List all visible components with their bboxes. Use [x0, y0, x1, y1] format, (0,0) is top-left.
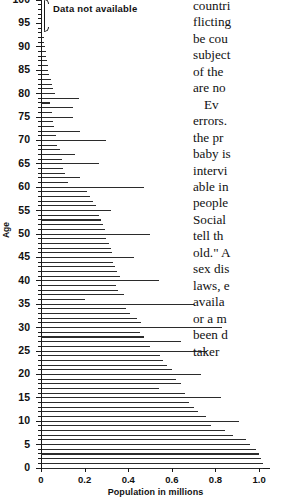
y-tick-70 — [36, 140, 42, 141]
bar-age-39 — [41, 285, 116, 286]
y-tick-12 — [38, 411, 42, 412]
y-tick-54 — [38, 215, 42, 216]
y-tick-22 — [38, 365, 42, 366]
y-tick-80 — [36, 93, 42, 94]
y-tick-79 — [38, 98, 42, 99]
bar-age-84 — [41, 74, 49, 75]
bar-age-68 — [41, 149, 60, 150]
y-tick-24 — [38, 355, 42, 356]
y-tick-label-75: 75 — [0, 112, 30, 121]
y-tick-25 — [36, 351, 42, 352]
y-tick-32 — [38, 318, 42, 319]
y-tick-71 — [38, 135, 42, 136]
body-text-line: flicting — [193, 14, 281, 30]
bar-age-38 — [41, 290, 118, 291]
body-text-line: able in — [193, 179, 281, 195]
bar-age-48 — [41, 243, 109, 244]
y-tick-5 — [36, 444, 42, 445]
y-tick-40 — [36, 280, 42, 281]
y-tick-93 — [38, 32, 42, 33]
y-tick-57 — [38, 201, 42, 202]
bar-age-29 — [41, 332, 140, 333]
y-tick-3 — [38, 453, 42, 454]
bar-age-78 — [41, 102, 50, 103]
y-tick-4 — [38, 449, 42, 450]
y-tick-92 — [38, 37, 42, 38]
bar-age-71 — [41, 135, 56, 136]
x-tick-0.2 — [85, 468, 86, 472]
y-tick-76 — [38, 112, 42, 113]
y-tick-100 — [36, 0, 42, 1]
y-tick-44 — [38, 262, 42, 263]
bar-age-77 — [41, 107, 73, 108]
y-tick-1 — [38, 463, 42, 464]
body-text-line: people — [193, 195, 281, 211]
y-tick-95 — [36, 23, 42, 24]
y-tick-69 — [38, 145, 42, 146]
bar-age-62 — [41, 177, 80, 178]
body-text-line: be cou — [193, 31, 281, 47]
bar-age-51 — [41, 229, 105, 230]
y-tick-83 — [38, 79, 42, 80]
bar-age-76 — [41, 112, 52, 113]
y-tick-86 — [38, 65, 42, 66]
y-tick-88 — [38, 56, 42, 57]
bar-age-20 — [41, 374, 201, 375]
y-tick-51 — [38, 229, 42, 230]
bar-age-12 — [41, 411, 198, 412]
x-tick-label-0: 0 — [26, 474, 56, 485]
y-tick-84 — [38, 74, 42, 75]
bar-age-9 — [41, 425, 211, 426]
bar-age-34 — [41, 308, 126, 309]
y-tick-82 — [38, 84, 42, 85]
y-tick-16 — [38, 393, 42, 394]
y-tick-62 — [38, 177, 42, 178]
bar-age-50 — [41, 234, 150, 235]
y-tick-58 — [38, 196, 42, 197]
x-axis-title: Population in millions — [41, 487, 270, 497]
y-tick-97 — [38, 14, 42, 15]
bar-age-64 — [41, 168, 63, 169]
bar-age-58 — [41, 196, 90, 197]
data-not-available-label: Data not available — [53, 3, 137, 14]
y-tick-43 — [38, 266, 42, 267]
y-tick-78 — [38, 102, 42, 103]
bar-age-53 — [41, 219, 101, 220]
bar-age-2 — [41, 458, 261, 459]
body-text-line: of the — [193, 64, 281, 80]
bar-age-0 — [41, 468, 263, 469]
bar-age-41 — [41, 276, 120, 277]
y-tick-14 — [38, 402, 42, 403]
y-tick-90 — [36, 46, 42, 47]
y-tick-94 — [38, 28, 42, 29]
y-tick-77 — [38, 107, 42, 108]
x-tick-label-0.6: 0.6 — [157, 474, 187, 485]
body-text-line: sex dis — [193, 261, 281, 277]
bar-age-15 — [41, 397, 221, 398]
bar-age-83 — [41, 79, 51, 80]
y-tick-50 — [36, 234, 42, 235]
bar-age-36 — [41, 299, 85, 300]
bar-age-43 — [41, 266, 115, 267]
body-text-line: taker — [193, 344, 281, 358]
x-tick-label-1.0: 1.0 — [244, 474, 274, 485]
body-text-line: availa — [193, 294, 281, 310]
y-tick-42 — [38, 271, 42, 272]
bar-age-57 — [41, 201, 93, 202]
y-tick-label-35: 35 — [0, 299, 30, 308]
bar-age-11 — [41, 416, 206, 417]
y-tick-label-25: 25 — [0, 346, 30, 355]
y-tick-98 — [38, 9, 42, 10]
bar-age-49 — [41, 238, 106, 239]
y-tick-39 — [38, 285, 42, 286]
body-text-line: Ev — [193, 97, 281, 113]
bar-age-33 — [41, 313, 130, 314]
y-tick-89 — [38, 51, 42, 52]
body-text-line: or a m — [193, 311, 281, 327]
bar-age-7 — [41, 435, 233, 436]
bar-age-26 — [41, 346, 150, 347]
bar-age-27 — [41, 341, 181, 342]
body-text-line: old." A — [193, 245, 281, 261]
y-tick-label-65: 65 — [0, 159, 30, 168]
bar-age-46 — [41, 252, 112, 253]
